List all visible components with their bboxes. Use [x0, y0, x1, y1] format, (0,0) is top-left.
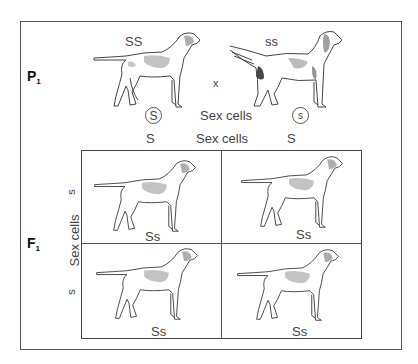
f1-letter: F	[27, 235, 36, 251]
parent2-gamete: s	[298, 110, 303, 121]
parent2-dog-illustration	[228, 28, 346, 112]
sex-cells-label-parents: Sex cells	[200, 108, 252, 123]
offspring-dog-illustration	[92, 246, 202, 324]
offspring-genotype-r2c1: Ss	[151, 324, 166, 339]
offspring-genotype-r1c2: Ss	[296, 227, 311, 242]
punnett-top-label: Sex cells	[196, 131, 248, 146]
generation-label-f1: F1	[27, 235, 40, 253]
p1-subscript: 1	[36, 77, 40, 86]
punnett-horizontal-divider	[81, 243, 362, 244]
generation-label-p1: P1	[27, 68, 41, 86]
offspring-dog-illustration	[90, 158, 200, 236]
parent1-gamete-circle: S	[145, 107, 162, 124]
offspring-genotype-r1c1: Ss	[145, 229, 160, 244]
punnett-vertical-divider	[221, 150, 222, 339]
cross-symbol: x	[213, 77, 219, 89]
row-allele-1: s	[65, 189, 77, 195]
parent2-gamete-circle: s	[292, 107, 309, 124]
offspring-dog-illustration	[237, 154, 347, 232]
parent1-dog-illustration	[92, 30, 202, 112]
p1-letter: P	[27, 68, 36, 84]
offspring-genotype-r2c2: Ss	[292, 324, 307, 339]
f1-subscript: 1	[36, 244, 40, 253]
column-allele-2: S	[287, 131, 296, 146]
parent1-gamete: S	[149, 109, 157, 123]
column-allele-1: S	[146, 131, 155, 146]
punnett-side-label: Sex cells	[67, 217, 82, 267]
offspring-dog-illustration	[233, 247, 343, 325]
row-allele-2: s	[65, 289, 77, 295]
